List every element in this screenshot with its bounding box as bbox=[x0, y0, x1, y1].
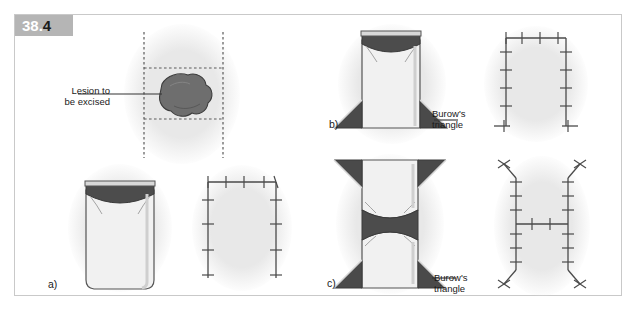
defect-band-a bbox=[85, 181, 155, 186]
annotation-burow-b-line2: triangle bbox=[432, 119, 466, 130]
annotation-burow-c-line1: Burow's bbox=[434, 272, 468, 283]
panel-a-result bbox=[178, 162, 308, 302]
annotation-burow-b: Burow's triangle bbox=[432, 108, 466, 130]
annotation-burow-c: Burow's triangle bbox=[434, 272, 468, 294]
defect-band-b bbox=[361, 31, 421, 36]
annotation-burow-c-line2: triangle bbox=[434, 283, 468, 294]
panel-c-result bbox=[478, 152, 613, 302]
annotation-lesion-line2: be excised bbox=[58, 96, 110, 107]
figure-number-minor: 4 bbox=[43, 15, 51, 36]
figure-38-4: 38.4 Lesion to be ex bbox=[0, 0, 638, 311]
panel-b-flap bbox=[322, 22, 462, 152]
figure-number-badge: 38.4 bbox=[15, 15, 73, 36]
panel-lesion-planning bbox=[110, 22, 280, 167]
skin-oval-b-result bbox=[484, 26, 588, 142]
caption-b: b) bbox=[329, 118, 338, 130]
caption-c: c) bbox=[327, 277, 336, 289]
panel-a-flap bbox=[50, 162, 190, 302]
panel-b-result bbox=[470, 22, 605, 152]
figure-number-major: 38 bbox=[22, 15, 39, 36]
skin-oval-c-result bbox=[494, 156, 590, 296]
flap-upper-c bbox=[362, 160, 418, 218]
annotation-lesion-line1: Lesion to bbox=[58, 85, 110, 96]
annotation-lesion: Lesion to be excised bbox=[58, 85, 110, 107]
caption-a: a) bbox=[48, 278, 57, 290]
lesion-blob bbox=[160, 74, 212, 116]
annotation-burow-b-line1: Burow's bbox=[432, 108, 466, 119]
